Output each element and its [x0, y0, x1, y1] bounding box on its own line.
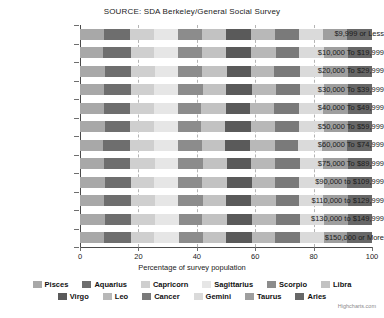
- bar-segment[interactable]: [201, 121, 225, 132]
- bar-segment[interactable]: [130, 103, 155, 114]
- bar-segment[interactable]: [226, 84, 251, 95]
- bar-segment[interactable]: [276, 195, 299, 206]
- bar-segment[interactable]: [80, 177, 105, 188]
- bar-segment[interactable]: [154, 29, 179, 40]
- legend-item[interactable]: Pisces: [33, 280, 69, 289]
- bar-segment[interactable]: [252, 214, 276, 225]
- bar-segment[interactable]: [252, 232, 276, 243]
- bar-segment[interactable]: [178, 29, 201, 40]
- bar-segment[interactable]: [226, 195, 251, 206]
- bar-segment[interactable]: [178, 84, 203, 95]
- bar-segment[interactable]: [203, 84, 227, 95]
- bar-segment[interactable]: [276, 84, 300, 95]
- bar-segment[interactable]: [275, 177, 299, 188]
- bar-segment[interactable]: [251, 158, 275, 169]
- bar-segment[interactable]: [251, 29, 275, 40]
- bar-segment[interactable]: [250, 140, 275, 151]
- bar-segment[interactable]: [154, 84, 178, 95]
- bar-segment[interactable]: [203, 232, 226, 243]
- bar-segment[interactable]: [155, 195, 178, 206]
- bar-segment[interactable]: [131, 214, 156, 225]
- bar-segment[interactable]: [227, 177, 252, 188]
- bar-segment[interactable]: [80, 103, 104, 114]
- legend-item[interactable]: Aquarius: [82, 280, 127, 289]
- bar-segment[interactable]: [202, 47, 225, 58]
- bar-segment[interactable]: [154, 177, 178, 188]
- bar-segment[interactable]: [275, 121, 299, 132]
- bar-segment[interactable]: [178, 140, 202, 151]
- bar-segment[interactable]: [104, 84, 131, 95]
- bar-segment[interactable]: [104, 29, 130, 40]
- bar-segment[interactable]: [251, 121, 275, 132]
- bar-segment[interactable]: [131, 177, 154, 188]
- bar-segment[interactable]: [226, 103, 250, 114]
- bar-segment[interactable]: [104, 232, 131, 243]
- bar-segment[interactable]: [203, 195, 227, 206]
- legend-item[interactable]: Capricorn: [141, 280, 188, 289]
- bar-segment[interactable]: [105, 214, 130, 225]
- bar-segment[interactable]: [251, 47, 275, 58]
- bar-segment[interactable]: [276, 214, 300, 225]
- bar-segment[interactable]: [252, 84, 277, 95]
- legend-item[interactable]: Gemini: [194, 292, 231, 301]
- bar-segment[interactable]: [251, 195, 276, 206]
- bar-segment[interactable]: [130, 29, 154, 40]
- bar-segment[interactable]: [105, 121, 130, 132]
- bar-segment[interactable]: [179, 232, 203, 243]
- bar-segment[interactable]: [105, 177, 131, 188]
- bar-segment[interactable]: [226, 29, 251, 40]
- bar-segment[interactable]: [155, 158, 178, 169]
- bar-segment[interactable]: [104, 158, 130, 169]
- bar-segment[interactable]: [154, 103, 177, 114]
- bar-segment[interactable]: [276, 47, 300, 58]
- bar-segment[interactable]: [178, 158, 203, 169]
- bar-segment[interactable]: [226, 47, 252, 58]
- bar-segment[interactable]: [154, 232, 179, 243]
- bar-segment[interactable]: [274, 103, 299, 114]
- legend-item[interactable]: Aries: [295, 292, 326, 301]
- bar-segment[interactable]: [80, 47, 103, 58]
- bar-segment[interactable]: [80, 214, 105, 225]
- bar-segment[interactable]: [202, 140, 225, 151]
- legend-item[interactable]: Taurus: [245, 292, 281, 301]
- bar-segment[interactable]: [227, 66, 252, 77]
- bar-segment[interactable]: [155, 214, 179, 225]
- bar-segment[interactable]: [178, 47, 203, 58]
- bar-segment[interactable]: [178, 195, 203, 206]
- bar-segment[interactable]: [275, 232, 300, 243]
- bar-segment[interactable]: [202, 177, 227, 188]
- bar-segment[interactable]: [80, 232, 104, 243]
- bar-segment[interactable]: [103, 47, 130, 58]
- legend-item[interactable]: Virgo: [58, 292, 89, 301]
- bar-segment[interactable]: [105, 66, 131, 77]
- legend-item[interactable]: Scorpio: [267, 280, 307, 289]
- bar-segment[interactable]: [103, 140, 130, 151]
- bar-segment[interactable]: [130, 140, 154, 151]
- bar-segment[interactable]: [178, 121, 201, 132]
- bar-segment[interactable]: [178, 66, 202, 77]
- legend-item[interactable]: Sagittarius: [202, 280, 253, 289]
- bar-segment[interactable]: [131, 232, 154, 243]
- bar-segment[interactable]: [225, 121, 251, 132]
- bar-segment[interactable]: [179, 214, 202, 225]
- bar-segment[interactable]: [80, 66, 105, 77]
- bar-segment[interactable]: [251, 66, 274, 77]
- bar-segment[interactable]: [104, 103, 130, 114]
- legend-item[interactable]: Leo: [103, 292, 128, 301]
- bar-segment[interactable]: [178, 177, 202, 188]
- bar-segment[interactable]: [154, 47, 178, 58]
- bar-segment[interactable]: [202, 214, 227, 225]
- bar-segment[interactable]: [131, 47, 154, 58]
- legend-item[interactable]: Cancer: [142, 292, 179, 301]
- bar-segment[interactable]: [226, 232, 252, 243]
- bar-segment[interactable]: [275, 140, 299, 151]
- bar-segment[interactable]: [155, 66, 178, 77]
- bar-segment[interactable]: [225, 140, 250, 151]
- bar-segment[interactable]: [154, 121, 178, 132]
- bar-segment[interactable]: [274, 66, 299, 77]
- bar-segment[interactable]: [131, 66, 155, 77]
- bar-segment[interactable]: [131, 195, 155, 206]
- bar-segment[interactable]: [275, 29, 300, 40]
- bar-segment[interactable]: [201, 103, 226, 114]
- bar-segment[interactable]: [80, 84, 104, 95]
